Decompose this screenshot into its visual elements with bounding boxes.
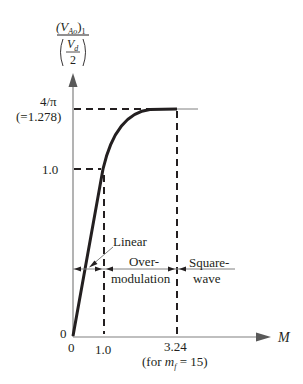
region-linear-label: Linear — [113, 235, 147, 248]
y-label-index: 1 — [82, 27, 86, 36]
y-label-right-paren — [83, 39, 86, 66]
region-overmodulation-line1: Over- — [124, 255, 164, 268]
y-label-ao-sub: Ao — [68, 27, 77, 36]
note-var: m — [165, 354, 174, 369]
y-label-close: ) — [77, 19, 81, 34]
arrowhead-right-icon — [95, 267, 102, 272]
gain-curve — [73, 109, 177, 336]
y-label-numerator: (VAo)1 — [56, 20, 86, 33]
arrowhead-left-icon — [179, 267, 186, 272]
y-label-denominator-top: Vd — [67, 38, 78, 50]
y-tick-1-0: 1.0 — [42, 163, 58, 176]
x-axis-arrowhead-icon — [256, 333, 271, 342]
note-suffix: = 15) — [176, 354, 207, 369]
x-tick-0: 0 — [68, 341, 75, 354]
arrowhead-left-icon — [74, 267, 81, 272]
y-label-left-paren — [61, 39, 64, 66]
diagram-canvas — [0, 0, 303, 384]
x-tick-3-24-note: (for mf = 15) — [142, 355, 208, 368]
y-tick-0: 0 — [60, 327, 67, 340]
y-tick-4-over-pi: 4/π — [40, 95, 57, 108]
x-axis-label: M — [278, 331, 290, 345]
region-squarewave-line2: wave — [193, 272, 220, 285]
region-squarewave-line1: Square- — [189, 256, 229, 269]
y-axis-arrowhead-icon — [69, 73, 78, 87]
note-prefix: (for — [142, 354, 165, 369]
y-label-denominator-bottom: 2 — [70, 54, 76, 66]
y-tick-4-over-pi-value: (=1.278) — [16, 110, 61, 123]
region-overmodulation-line2: modulation — [111, 272, 170, 285]
x-tick-1-0: 1.0 — [95, 343, 111, 356]
x-tick-3-24: 3.24 — [164, 340, 187, 353]
y-label-v: (V — [56, 19, 68, 34]
y-label-d-sub: d — [74, 44, 78, 53]
